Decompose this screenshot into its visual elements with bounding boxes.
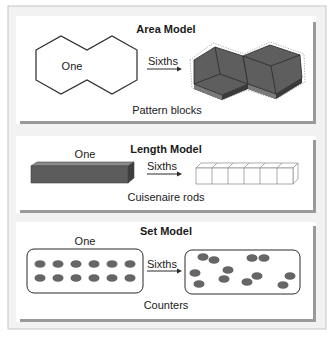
area-arrow-label: Sixths [148, 55, 178, 67]
set-caption: Counters [144, 299, 189, 311]
length-whole-label: One [75, 148, 96, 160]
set-whole-box [27, 249, 143, 293]
length-caption: Cuisenaire rods [127, 191, 205, 203]
area-caption: Pattern blocks [132, 104, 202, 116]
panel-area-shadow-right [313, 22, 316, 124]
panel-set-shadow-bottom [20, 319, 316, 322]
panel-area-model: Area Model One Sixths [16, 16, 316, 124]
fraction-models-figure: Area Model One Sixths [0, 0, 331, 337]
diagram-canvas: Area Model One Sixths [0, 0, 331, 337]
length-arrow-label: Sixths [147, 160, 177, 172]
panel-length-shadow-bottom [20, 210, 316, 213]
set-whole-label: One [75, 235, 96, 247]
panel-area-shadow-bottom [20, 121, 316, 124]
panel-length-shadow-right [313, 140, 316, 213]
cuisenaire-rod-whole [31, 162, 134, 183]
cuisenaire-rods-sixths [196, 163, 298, 184]
panel-area-title: Area Model [136, 23, 195, 35]
panel-set-model: Set Model One Sixths [16, 222, 316, 322]
set-arrow-label: Sixths [147, 258, 177, 270]
panel-length-model: Length Model One Sixths [16, 136, 316, 213]
panel-length-title: Length Model [130, 143, 202, 155]
area-whole-label: One [62, 60, 83, 72]
panel-set-shadow-right [313, 226, 316, 322]
panel-set-title: Set Model [140, 225, 192, 237]
